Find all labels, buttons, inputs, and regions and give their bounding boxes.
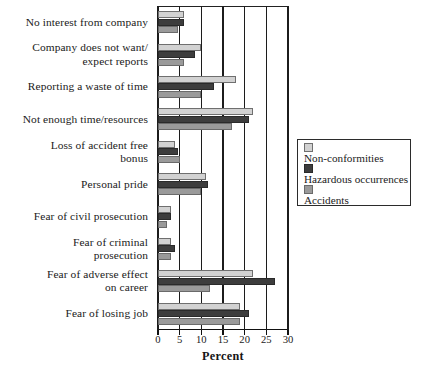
bar — [158, 188, 201, 195]
legend: Non-conformitiesHazardous occurrencesAcc… — [297, 139, 411, 206]
x-tick-label: 5 — [177, 334, 182, 346]
bar — [158, 213, 171, 220]
x-tick-label: 10 — [196, 334, 207, 346]
bar — [158, 270, 253, 277]
bar — [158, 123, 232, 130]
x-axis-tick-labels: 051015202530 — [158, 334, 288, 348]
category-label: Company does not want/expect reports — [0, 41, 148, 67]
category-label: Fear of civil prosecution — [0, 210, 148, 223]
bar — [158, 173, 206, 180]
category-label-line: on career — [0, 281, 148, 294]
bar-group — [158, 76, 288, 98]
legend-swatch-icon — [304, 143, 313, 152]
bar — [158, 83, 214, 90]
bar — [158, 245, 175, 252]
category-label: Loss of accident freebonus — [0, 139, 148, 165]
category-label-line: Loss of accident free — [0, 139, 148, 152]
bar — [158, 303, 240, 310]
category-label: No interest from company — [0, 16, 148, 29]
bar — [158, 141, 175, 148]
bar — [158, 108, 253, 115]
bar-group — [158, 11, 288, 33]
legend-swatch-icon — [304, 164, 313, 173]
plot-area — [158, 6, 288, 330]
category-label-line: Fear of adverse effect — [0, 268, 148, 281]
bar — [158, 116, 249, 123]
category-label-line: No interest from company — [0, 16, 148, 29]
bar — [158, 156, 180, 163]
x-tick-label: 20 — [239, 334, 250, 346]
category-label-line: Fear of civil prosecution — [0, 210, 148, 223]
category-label: Personal pride — [0, 178, 148, 191]
x-tick-label: 15 — [218, 334, 229, 346]
category-label-line: prosecution — [0, 249, 148, 262]
bar-group — [158, 206, 288, 228]
bar — [158, 278, 275, 285]
legend-item: Accidents — [304, 185, 408, 206]
bar-group — [158, 303, 288, 325]
category-label: Fear of adverse effecton career — [0, 268, 148, 294]
bar — [158, 26, 178, 33]
legend-label: Accidents — [304, 194, 349, 207]
category-label: Reporting a waste of time — [0, 80, 148, 93]
legend-swatch-icon — [304, 185, 313, 194]
bar — [158, 310, 249, 317]
x-tick-label: 25 — [261, 334, 272, 346]
bar-group — [158, 141, 288, 163]
bar — [158, 285, 210, 292]
category-label-line: Company does not want/ — [0, 41, 148, 54]
bar-chart: No interest from companyCompany does not… — [0, 0, 425, 374]
legend-item: Hazardous occurrences — [304, 164, 408, 185]
category-label-line: expect reports — [0, 55, 148, 68]
bar — [158, 19, 184, 26]
bar — [158, 51, 195, 58]
bar — [158, 206, 171, 213]
bar — [158, 181, 208, 188]
bar-group — [158, 270, 288, 292]
x-axis-title: Percent — [158, 349, 288, 364]
bar — [158, 91, 201, 98]
category-label: Fear of criminalprosecution — [0, 236, 148, 262]
bar-group — [158, 238, 288, 260]
category-label-line: Fear of criminal — [0, 236, 148, 249]
category-label: Fear of losing job — [0, 307, 148, 320]
category-axis-labels: No interest from companyCompany does not… — [0, 6, 152, 330]
bar — [158, 221, 167, 228]
category-label-line: Not enough time/resources — [0, 113, 148, 126]
bar — [158, 238, 171, 245]
bar — [158, 318, 240, 325]
bar — [158, 76, 236, 83]
bar — [158, 253, 171, 260]
x-tick-label: 0 — [155, 334, 160, 346]
legend-item: Non-conformities — [304, 143, 408, 164]
category-label-line: Fear of losing job — [0, 307, 148, 320]
category-label-line: bonus — [0, 152, 148, 165]
bar-group — [158, 44, 288, 66]
bar — [158, 11, 184, 18]
bar — [158, 59, 184, 66]
x-tick-label: 30 — [283, 334, 294, 346]
bar — [158, 44, 201, 51]
category-label-line: Personal pride — [0, 178, 148, 191]
bar-group — [158, 108, 288, 130]
category-label: Not enough time/resources — [0, 113, 148, 126]
bar-group — [158, 173, 288, 195]
bar — [158, 148, 178, 155]
category-label-line: Reporting a waste of time — [0, 80, 148, 93]
